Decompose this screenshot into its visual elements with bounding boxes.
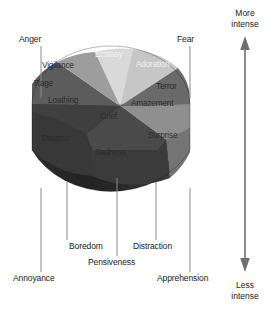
wedge-label-surprise: Surprise bbox=[148, 131, 177, 140]
wedge-label-grief: Grief bbox=[100, 112, 117, 121]
arrow-head-down bbox=[240, 258, 250, 272]
arrow-head-up bbox=[240, 36, 250, 50]
callout-label-pensiveness: Pensiveness bbox=[88, 257, 135, 267]
wedge-label-adoration: Adoration bbox=[136, 60, 170, 69]
emotion-cone-figure: Vigilance Ecstasy Adoration Rage Terror … bbox=[0, 0, 275, 310]
wedge-label-amazement: Amazement bbox=[131, 99, 173, 108]
intensity-arrow bbox=[240, 36, 250, 272]
cone-graphic bbox=[0, 0, 275, 310]
callout-label-boredom: Boredom bbox=[69, 241, 103, 251]
wedge-label-sadness: Sadness bbox=[95, 148, 126, 157]
wedge-label-ecstasy: Ecstasy bbox=[95, 50, 123, 59]
callout-label-fear: Fear bbox=[177, 34, 194, 44]
wedge-label-terror: Terror bbox=[156, 82, 176, 91]
callout-label-annoyance: Annoyance bbox=[13, 273, 55, 283]
callout-label-apprehension: Apprehension bbox=[157, 273, 208, 283]
axis-label-less-intense: Less intense bbox=[217, 280, 273, 301]
wedge-label-loathing: Loathing bbox=[48, 96, 78, 105]
axis-label-more-intense: More intense bbox=[217, 8, 273, 29]
callout-label-distraction: Distraction bbox=[133, 241, 172, 251]
wedge-label-rage: Rage bbox=[34, 79, 53, 88]
callout-label-anger: Anger bbox=[19, 34, 41, 44]
wedge-label-disgust: Disgust bbox=[42, 134, 68, 143]
wedge-label-vigilance: Vigilance bbox=[42, 61, 74, 70]
